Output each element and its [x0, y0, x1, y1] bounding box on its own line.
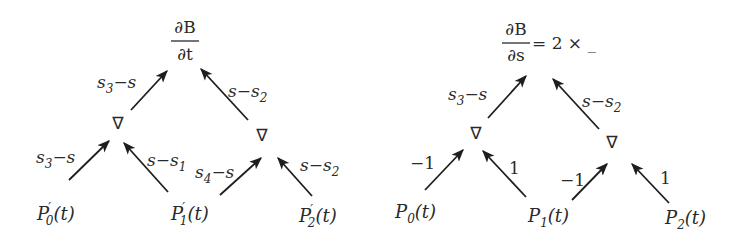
left-edge-label-3: s4−s: [195, 162, 235, 186]
right-title-suffix: = 2 × _: [532, 33, 597, 53]
left-top-right-label: s−s2: [228, 81, 267, 105]
right-title-denominator: ∂s: [507, 45, 525, 65]
left-top-left-label: s3−s: [97, 72, 137, 96]
right-title-numerator: ∂B: [505, 19, 526, 39]
right-top-left-label: s3−s: [448, 84, 488, 108]
right-top-right-label: s−s2: [582, 91, 621, 115]
right-edge-label-3: −1: [560, 170, 585, 190]
left-edge-label-1: s3−s: [36, 147, 76, 171]
left-edge-label-2: s−s1: [147, 150, 186, 174]
right-top-left-arrow-icon: [488, 76, 526, 118]
left-nabla-node-1: ∇: [111, 113, 124, 133]
left-leaf-p2: P′2(t): [298, 203, 337, 230]
right-leaf-p2: P2(t): [664, 207, 706, 232]
left-leaf-p0: P′0(t): [36, 201, 75, 228]
right-edge-label-1: −1: [410, 153, 435, 173]
right-leaf-p1: P1(t): [527, 205, 569, 230]
right-nabla-node-1: ∇: [469, 123, 482, 143]
right-edge-label-4: 1: [660, 168, 671, 188]
right-diagram: ∂B ∂s = 2 × _ s3−s s−s2 ∇ ∇ −1 1 −1 1 P0…: [394, 19, 706, 232]
right-nabla-node-2: ∇: [605, 132, 618, 152]
diagram-canvas: ∂B ∂t s3−s s−s2 ∇ ∇ s3−s s−s1 s4−s s−s2 …: [0, 0, 732, 243]
right-edge-label-2: 1: [509, 158, 520, 178]
left-nabla-node-2: ∇: [255, 125, 268, 145]
diagram-svg: ∂B ∂t s3−s s−s2 ∇ ∇ s3−s s−s1 s4−s s−s2 …: [0, 0, 732, 243]
left-title-denominator: ∂t: [177, 44, 193, 64]
right-title-fraction: ∂B ∂s = 2 × _: [502, 19, 597, 65]
left-leaf-p1: P′1(t): [170, 201, 209, 228]
left-title-fraction: ∂B ∂t: [171, 17, 199, 64]
left-edge-label-4: s−s2: [300, 155, 339, 179]
left-diagram: ∂B ∂t s3−s s−s2 ∇ ∇ s3−s s−s1 s4−s s−s2 …: [36, 17, 339, 230]
right-leaf-p0: P0(t): [394, 201, 436, 226]
left-title-numerator: ∂B: [174, 17, 195, 37]
left-top-left-arrow-icon: [131, 71, 167, 110]
